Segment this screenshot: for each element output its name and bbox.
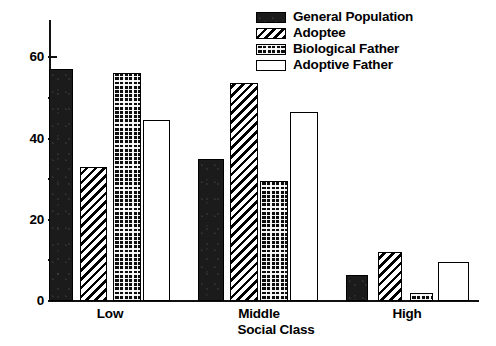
bar-middle-adoptive-father [290,112,318,301]
legend-label-adoptee: Adoptee [293,26,346,40]
y-tick-label-20: 20 [10,213,44,227]
bar-low-biological-father [113,73,141,301]
bar-high-general-population [346,275,368,301]
legend-label-general-population: General Population [293,10,413,24]
legend-item-adoptive-father: Adoptive Father [256,57,413,73]
y-tick-label-60: 60 [10,50,44,64]
legend-label-biological-father: Biological Father [293,42,399,56]
bar-middle-biological-father [260,181,288,301]
legend-swatch-open-icon [256,60,286,71]
bar-high-biological-father [410,293,433,301]
bar-high-adoptive-father [438,262,469,301]
bar-chart: 60 40 20 0 Low Middle High Social Class … [0,0,496,346]
legend-swatch-diagonal-icon [256,28,286,39]
y-tick-label-40: 40 [10,132,44,146]
bar-low-general-population [49,69,73,301]
legend: General Population Adoptee Biological Fa… [256,9,413,73]
legend-label-adoptive-father: Adoptive Father [293,58,393,72]
x-group-label-high: High [344,307,470,321]
bar-high-adoptee [378,252,402,301]
x-group-label-middle: Middle [196,307,322,321]
bar-low-adoptee [80,167,107,301]
bar-middle-general-population [198,159,224,301]
legend-item-biological-father: Biological Father [256,41,413,57]
legend-swatch-solid-icon [256,12,286,23]
bar-low-adoptive-father [143,120,170,301]
legend-swatch-crosshatch-icon [256,44,286,55]
x-group-label-low: Low [47,307,173,321]
x-axis-title: Social Class [196,323,356,337]
bar-middle-adoptee [230,83,258,301]
legend-item-general-population: General Population [256,9,413,25]
legend-item-adoptee: Adoptee [256,25,413,41]
y-tick-label-0: 0 [10,294,44,308]
